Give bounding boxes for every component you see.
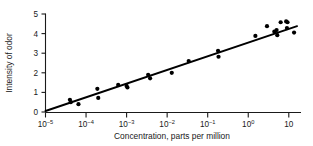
fit-line-segment	[46, 26, 298, 111]
data-point	[69, 100, 73, 104]
y-axis: 5 4 3 2 1 0	[33, 10, 45, 117]
y-tick-label-5: 5	[33, 10, 38, 19]
data-point	[76, 102, 80, 106]
chart-svg: Intensity of odor 5 4 3 2 1 0 10−510−410…	[0, 0, 313, 146]
fit-line	[46, 26, 298, 111]
x-axis-title-text: Concentration, parts per million	[114, 131, 230, 141]
x-tick-label-2: 10−3	[119, 119, 135, 129]
y-tick-label-1: 1	[33, 88, 38, 97]
odor-intensity-chart: Intensity of odor 5 4 3 2 1 0 10−510−410…	[0, 0, 313, 146]
data-point	[148, 76, 152, 80]
data-point	[275, 33, 279, 37]
y-tick-label-4: 4	[33, 30, 38, 39]
data-point	[146, 73, 150, 77]
data-points	[68, 19, 296, 106]
x-tick-label-5: 100	[242, 119, 254, 129]
data-point	[292, 31, 296, 35]
x-tick-labels: 10−510−410−310−210−110010	[38, 119, 294, 129]
data-point	[285, 26, 289, 30]
x-tick-label-4: 10−1	[200, 119, 216, 129]
y-axis-title: Intensity of odor	[4, 33, 14, 93]
data-point	[96, 96, 100, 100]
data-point	[285, 20, 289, 24]
data-point	[253, 34, 257, 38]
data-point	[125, 85, 129, 89]
x-tick-label-6: 10	[284, 120, 294, 129]
data-point	[95, 87, 99, 91]
y-tick-label-0: 0	[33, 108, 38, 117]
y-axis-title-text: Intensity of odor	[4, 33, 14, 93]
x-tick-marks	[46, 113, 289, 118]
y-tick-label-3: 3	[33, 49, 38, 58]
data-point	[265, 24, 269, 28]
data-point	[274, 28, 278, 32]
data-point	[187, 59, 191, 63]
y-tick-label-2: 2	[33, 69, 38, 78]
data-point	[216, 55, 220, 59]
x-tick-label-1: 10−4	[78, 119, 94, 129]
x-tick-label-0: 10−5	[38, 119, 54, 129]
data-point	[279, 20, 283, 24]
data-point	[116, 83, 120, 87]
x-axis: 10−510−410−310−210−110010	[38, 113, 301, 130]
x-tick-label-3: 10−2	[159, 119, 175, 129]
data-point	[216, 49, 220, 53]
data-point	[170, 71, 174, 75]
